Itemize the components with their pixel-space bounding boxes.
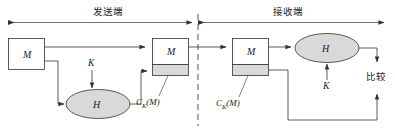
edge-msg-to-hash [45, 61, 65, 104]
diagram-svg [0, 0, 395, 133]
section-label-receiver: 接收端 [273, 7, 303, 17]
sender-packet-box [153, 39, 189, 76]
section-label-sender: 发送端 [93, 7, 123, 17]
mac-sender-arg: (M) [146, 97, 160, 107]
edge-tag-to-compare [269, 70, 378, 120]
key-label-receiver: K [323, 82, 329, 92]
mac-sender-leader [159, 76, 168, 97]
receiver-packet-label: M [247, 46, 255, 57]
mac-receiver-arg: (M) [226, 98, 240, 108]
key-label-sender: K [88, 59, 94, 69]
mac-receiver-leader [239, 76, 248, 98]
mac-label-sender: CK(M) [136, 98, 160, 109]
mac-label-receiver: CK(M) [216, 99, 240, 110]
msg-source-label: M [23, 49, 31, 60]
compare-label: 比较 [366, 72, 386, 82]
edge-hash-to-compare [359, 48, 377, 62]
sender-packet-label: M [167, 46, 175, 57]
hash-receiver-label: H [322, 43, 329, 54]
receiver-packet-box [233, 39, 269, 76]
diagram-canvas: 发送端 接收端 M M M H H K K CK(M) CK(M) 比较 [0, 0, 395, 133]
hash-sender-label: H [93, 99, 100, 110]
